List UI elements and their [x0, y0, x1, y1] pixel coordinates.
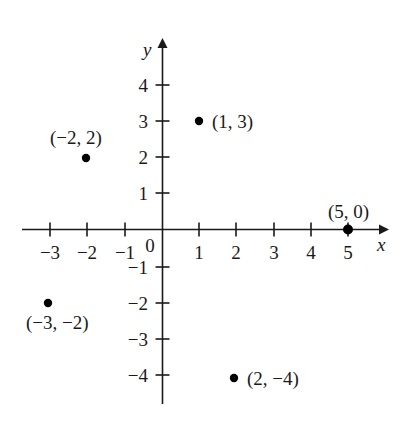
x-axis-label: x [377, 235, 385, 254]
x-tick-label-3: 3 [262, 243, 286, 262]
y-tick-label--2: −2 [116, 294, 148, 313]
x-tick-label-1: 1 [187, 243, 211, 262]
x-tick-label-4: 4 [299, 243, 323, 262]
point-marker-n3-n2 [44, 299, 52, 307]
point-label-n2-2: (−2, 2) [50, 128, 102, 147]
x-tick-label--3: −3 [32, 243, 68, 262]
y-tick-label--4: −4 [116, 366, 148, 385]
y-tick-label--3: −3 [116, 330, 148, 349]
point-label-5-0: (5, 0) [328, 202, 369, 221]
y-axis-group [156, 38, 170, 404]
point-label-2-n4: (2, −4) [247, 369, 299, 388]
point-marker-5-0 [343, 225, 353, 235]
x-tick-label-2: 2 [224, 243, 248, 262]
y-tick-label-1: 1 [126, 184, 148, 203]
point-label-n3-n2: (−3, −2) [26, 313, 89, 332]
point-marker-2-n4 [230, 374, 238, 382]
coordinate-plane-figure: y x 0 −3 −2 −1 1 2 3 4 5 4 3 2 1 −1 −2 −… [0, 0, 411, 425]
y-tick-label-2: 2 [126, 148, 148, 167]
x-axis-arrowhead [379, 225, 389, 235]
x-axis-group [22, 223, 389, 237]
point-label-1-3: (1, 3) [212, 112, 253, 131]
y-tick-label--1: −1 [116, 258, 148, 277]
point-marker-1-3 [195, 117, 203, 125]
x-tick-label-5: 5 [336, 243, 360, 262]
origin-tick-label: 0 [141, 236, 159, 255]
y-tick-label-3: 3 [126, 112, 148, 131]
point-marker-n2-2 [82, 154, 90, 162]
y-axis-label: y [143, 40, 151, 59]
x-tick-label--2: −2 [69, 243, 105, 262]
y-axis-arrowhead [158, 38, 168, 48]
y-tick-label-4: 4 [126, 76, 148, 95]
